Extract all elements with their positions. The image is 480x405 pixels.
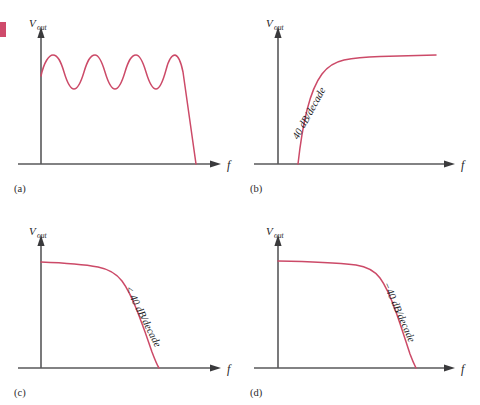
response-curve-a bbox=[41, 55, 196, 164]
x-axis-label-b: f bbox=[461, 158, 466, 172]
y-axis-label-b: V bbox=[266, 17, 274, 29]
x-axis-arrow-c bbox=[210, 364, 221, 371]
panel-b: 40 dB/decade V out f (b) bbox=[240, 0, 480, 202]
y-axis-label-c: V bbox=[29, 225, 37, 237]
caption-a: (a) bbox=[14, 183, 26, 195]
figure-root: V out f (a) 40 dB/decade V out f (b) bbox=[0, 0, 480, 405]
caption-c: (c) bbox=[14, 387, 26, 399]
x-axis-arrow-b bbox=[444, 160, 455, 167]
caption-b: (b) bbox=[250, 183, 263, 195]
y-axis-sublabel-a: out bbox=[37, 23, 48, 32]
y-axis-sublabel-b: out bbox=[274, 23, 285, 32]
x-axis-arrow-d bbox=[444, 364, 455, 371]
slope-label-b: 40 dB/decade bbox=[290, 85, 328, 141]
y-axis-label-a: V bbox=[29, 17, 37, 29]
panel-c: < 40 dB/decade V out f (c) bbox=[0, 200, 240, 402]
x-axis-label-d: f bbox=[461, 362, 466, 376]
x-axis-label-a: f bbox=[227, 158, 232, 172]
y-axis-label-d: V bbox=[266, 225, 274, 237]
x-axis-arrow-a bbox=[210, 160, 221, 167]
panel-d: −40 dB/decade V out f (d) bbox=[240, 200, 480, 402]
x-axis-label-c: f bbox=[227, 362, 232, 376]
y-axis-sublabel-d: out bbox=[274, 231, 285, 240]
slope-label-d: −40 dB/decade bbox=[381, 280, 417, 344]
response-curve-b bbox=[298, 55, 436, 164]
caption-d: (d) bbox=[250, 387, 263, 399]
slope-label-c: < 40 dB/decade bbox=[123, 284, 163, 349]
panel-a: V out f (a) bbox=[0, 0, 240, 202]
y-axis-sublabel-c: out bbox=[37, 231, 48, 240]
